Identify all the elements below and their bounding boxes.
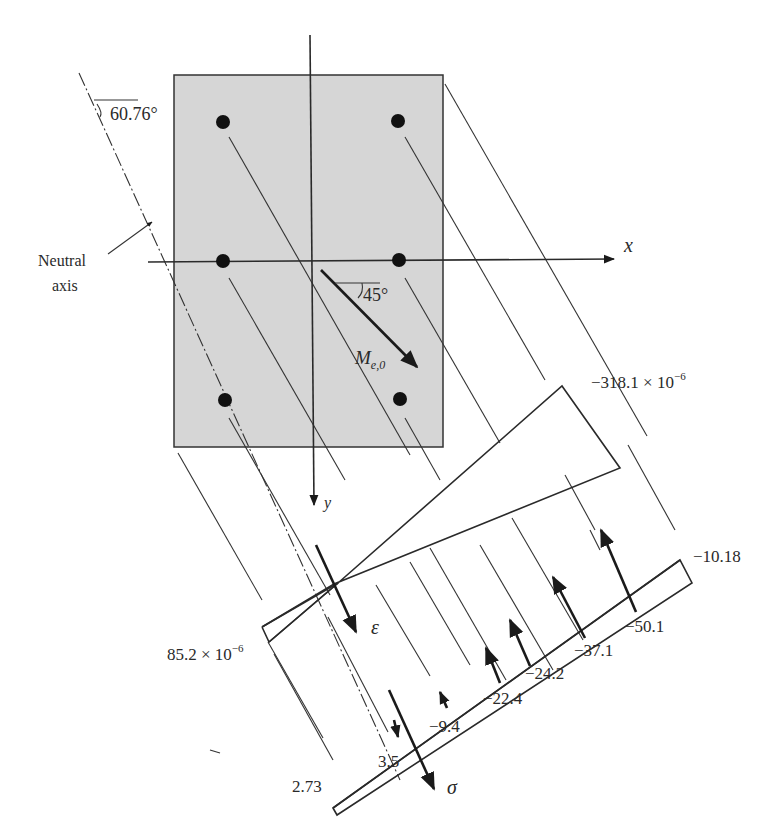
moment-symbol: M [354,347,372,368]
bar-force-label-5: 3.5 [378,752,399,771]
neutral-axis-angle-label: 60.76° [110,104,158,124]
neutral-axis-label-line1: Neutral [38,252,87,269]
bar-force-label-1: −37.1 [574,641,613,660]
stress-axis-arrow [389,690,434,789]
rebar-mid-right [392,253,406,267]
y-axis-label: y [322,494,332,512]
rebar-bottom-left [218,393,232,407]
force-arrow-9.4 [440,692,447,708]
rebar-bottom-right [393,392,407,406]
moment-subscript: e,0 [371,358,385,372]
force-arrow-24.2 [510,620,530,666]
bar-force-label-2: −24.2 [525,664,564,683]
strain-symbol: ε [371,616,379,638]
strain-axis-arrow [316,545,356,632]
x-axis-label: x [623,234,633,256]
neutral-axis-pointer [108,222,152,254]
section-analysis-diagram: x y 60.76° Neutral axis 45° Me,0 −318.1 … [0,0,781,836]
strain-top-value: −318.1 × 10−6 [591,370,686,392]
bar-force-label-0: −50.1 [625,617,664,636]
force-arrow-3.5 [394,720,398,737]
stress-diagram [333,560,692,815]
bar-force-label-4: −9.4 [429,717,460,736]
bar-force-label-3: −22.4 [483,689,523,708]
neutral-axis-label-line2: axis [52,277,78,294]
strain-bottom-value: 85.2 × 10−6 [167,642,244,664]
moment-angle-label: 45° [363,285,388,305]
rebar-top-left [216,115,230,129]
rebar-top-right [391,114,405,128]
stress-symbol: σ [447,776,458,798]
force-arrow-37.1 [553,577,585,638]
stress-extreme-tension: 2.73 [292,777,322,796]
force-arrow-50.1 [601,530,636,612]
rebar-mid-left [216,254,230,268]
stress-extreme-compression: −10.18 [693,547,741,566]
